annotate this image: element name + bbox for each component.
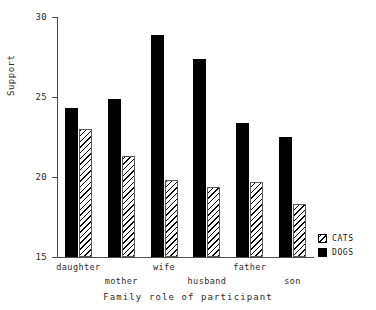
bar-cats: [165, 180, 178, 257]
bar-dogs: [151, 35, 164, 257]
y-axis-tick-label: 25: [36, 92, 47, 102]
bar-chart: Support 15202530 daughtermotherwifehusba…: [0, 0, 376, 310]
x-axis-category-label: husband: [188, 276, 227, 286]
bar-cats: [79, 129, 92, 257]
y-axis-title: Support: [6, 55, 16, 96]
y-axis-tick-label: 30: [36, 12, 47, 22]
x-axis-category-label: wife: [153, 262, 175, 272]
x-axis-title: Family role of participant: [103, 292, 272, 302]
bar-cats: [207, 187, 220, 257]
x-axis-category-label: father: [233, 262, 266, 272]
x-axis-category-label: mother: [105, 276, 138, 286]
x-axis-category-label: son: [284, 276, 301, 286]
x-axis-category-label: daughter: [56, 262, 100, 272]
legend-label: DOGS: [332, 248, 354, 257]
bar-cats: [122, 156, 135, 257]
bar-dogs: [108, 99, 121, 257]
y-axis-tick: 15: [52, 257, 58, 258]
bar-dogs: [279, 137, 292, 257]
legend-swatch-dogs-icon: [318, 248, 327, 257]
y-axis-tick-label: 15: [36, 252, 47, 262]
x-axis-line: [57, 257, 314, 258]
legend-swatch-cats-icon: [318, 234, 327, 243]
bar-cats: [250, 182, 263, 257]
legend-item: DOGS: [318, 245, 354, 259]
bar-dogs: [65, 108, 78, 257]
legend-item: CATS: [318, 231, 354, 245]
plot-area: [57, 17, 314, 257]
bar-dogs: [193, 59, 206, 257]
bar-cats: [293, 204, 306, 257]
y-axis-tick-label: 20: [36, 172, 47, 182]
bar-dogs: [236, 123, 249, 257]
legend-label: CATS: [332, 234, 354, 243]
legend: CATSDOGS: [318, 231, 354, 259]
